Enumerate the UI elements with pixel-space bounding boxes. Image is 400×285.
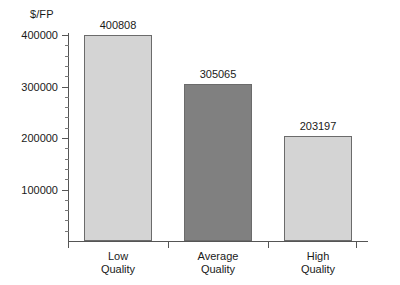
y-axis-minor-tick <box>65 210 69 211</box>
y-axis-tick-label: 300000 <box>21 81 58 93</box>
category-label-line: Quality <box>101 263 135 276</box>
y-axis-minor-tick <box>65 159 69 160</box>
bar <box>184 84 252 241</box>
y-axis-minor-tick <box>65 169 69 170</box>
category-separator-tick <box>356 241 357 248</box>
y-axis-minor-tick <box>65 76 69 77</box>
bar <box>284 136 352 241</box>
y-axis-tick <box>62 190 69 191</box>
y-axis-minor-tick <box>65 179 69 180</box>
y-axis-minor-tick <box>65 200 69 201</box>
category-separator-tick <box>268 241 269 248</box>
y-axis-tick-label: 200000 <box>21 132 58 144</box>
y-axis-tick-label: 100000 <box>21 184 58 196</box>
category-label-line: Quality <box>198 263 239 276</box>
x-axis-line <box>68 241 368 242</box>
x-axis-category-label: HighQuality <box>301 250 335 276</box>
bar-value-label: 400808 <box>100 19 137 31</box>
y-axis-minor-tick <box>65 117 69 118</box>
category-label-line: High <box>301 250 335 263</box>
y-axis-minor-tick <box>65 66 69 67</box>
bar <box>84 35 152 241</box>
y-axis-tick <box>62 35 69 36</box>
y-axis-tick <box>62 87 69 88</box>
y-axis-tick-label: 400000 <box>21 29 58 41</box>
category-label-line: Quality <box>301 263 335 276</box>
bar-value-label: 203197 <box>300 120 337 132</box>
y-axis-tick <box>62 138 69 139</box>
y-axis-minor-tick <box>65 45 69 46</box>
category-label-line: Average <box>198 250 239 263</box>
y-axis-minor-tick <box>65 128 69 129</box>
y-axis-title: $/FP <box>30 8 54 20</box>
y-axis-minor-tick <box>65 56 69 57</box>
x-axis-category-label: AverageQuality <box>198 250 239 276</box>
y-axis-minor-tick <box>65 97 69 98</box>
category-separator-tick <box>168 241 169 248</box>
y-axis-minor-tick <box>65 231 69 232</box>
y-axis-minor-tick <box>65 107 69 108</box>
bar-chart: $/FP 100000200000300000400000 4008083050… <box>0 0 400 285</box>
category-separator-tick <box>68 241 69 248</box>
y-axis-minor-tick <box>65 148 69 149</box>
bar-value-label: 305065 <box>200 68 237 80</box>
x-axis-category-label: LowQuality <box>101 250 135 276</box>
category-label-line: Low <box>101 250 135 263</box>
y-axis-minor-tick <box>65 220 69 221</box>
